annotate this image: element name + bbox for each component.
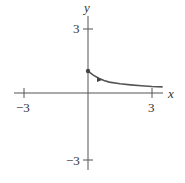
chart: x y −3 3 3 −3 bbox=[0, 0, 185, 183]
y-axis-label: y bbox=[82, 0, 90, 15]
start-point-dot bbox=[86, 69, 90, 73]
x-tick-label-3: 3 bbox=[148, 100, 155, 115]
x-axis-label: x bbox=[167, 86, 174, 101]
x-tick-label-neg3: −3 bbox=[16, 100, 30, 115]
y-tick-label-neg3: −3 bbox=[66, 153, 80, 168]
y-tick-label-3: 3 bbox=[73, 21, 80, 36]
